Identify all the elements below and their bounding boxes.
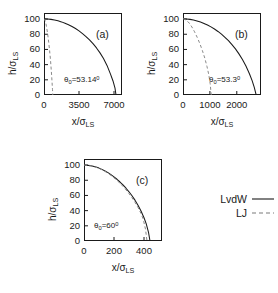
y-tick-label: 20 <box>13 75 40 85</box>
x-tick-label: 200 <box>106 246 122 256</box>
x-tick-label: 0 <box>81 246 86 256</box>
x-axis-label: x/σLS <box>44 117 122 128</box>
contact-angle-label-c: θ0=600 <box>94 222 118 231</box>
panel-tag-b: (b) <box>235 29 248 40</box>
x-tick-label: 0 <box>180 100 185 110</box>
y-tick-label: 80 <box>53 176 80 186</box>
legend-label-lvdw: LvdW <box>220 194 247 205</box>
panel-c: 0204060801000200400x/σLSh/σLS(c)θ0=600 <box>40 146 179 293</box>
curve-lj <box>44 19 53 95</box>
curve-lj <box>183 19 211 95</box>
y-tick-label: 20 <box>53 221 80 231</box>
x-axis-label: x/σLS <box>183 117 261 128</box>
x-tick-label: 400 <box>136 246 152 256</box>
legend-item-lvdw: LvdW <box>188 192 274 206</box>
y-tick-label: 100 <box>13 14 40 24</box>
y-tick-label: 0 <box>53 236 80 246</box>
y-axis-label: h/σLS <box>48 198 59 221</box>
x-tick-label: 3500 <box>68 100 89 110</box>
y-tick-label: 20 <box>152 75 179 85</box>
legend-label-lj: LJ <box>236 208 247 219</box>
solid-line-icon <box>252 195 274 203</box>
y-tick-label: 100 <box>53 160 80 170</box>
y-tick-label: 80 <box>152 30 179 40</box>
y-tick-label: 0 <box>152 90 179 100</box>
x-tick-label: 0 <box>41 100 46 110</box>
x-tick-label: 2000 <box>226 100 247 110</box>
legend-item-lj: LJ <box>188 206 274 220</box>
legend: LvdW LJ <box>188 192 274 220</box>
contact-angle-label-a: θ0=53.140 <box>64 76 100 85</box>
panel-tag-a: (a) <box>96 29 109 40</box>
x-tick-label: 7000 <box>103 100 124 110</box>
y-tick-label: 80 <box>13 30 40 40</box>
x-axis-label: x/σLS <box>84 263 162 274</box>
contact-angle-label-b: θ0=53.30 <box>209 76 240 85</box>
dashed-line-icon <box>252 209 274 217</box>
panel-a: 020406080100035007000x/σLSh/σLS(a)θ0=53.… <box>0 0 139 146</box>
y-axis-label: h/σLS <box>8 52 19 75</box>
y-axis-label: h/σLS <box>147 52 158 75</box>
y-tick-label: 0 <box>13 90 40 100</box>
panel-b: 020406080100010002000x/σLSh/σLS(b)θ0=53.… <box>139 0 278 146</box>
x-tick-label: 1000 <box>199 100 220 110</box>
figure-container: 020406080100035007000x/σLSh/σLS(a)θ0=53.… <box>0 0 278 293</box>
y-tick-label: 100 <box>152 14 179 24</box>
panel-tag-c: (c) <box>136 175 148 186</box>
